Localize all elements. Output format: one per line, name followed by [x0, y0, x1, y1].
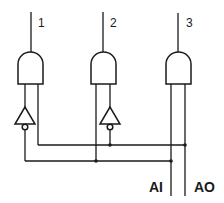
and-gate-3	[166, 52, 191, 84]
inverter-1-icon	[15, 107, 35, 124]
and-gate-2	[91, 52, 116, 84]
junction-dot	[169, 159, 173, 163]
junction-dot	[183, 143, 187, 147]
input-label-ao: AO	[194, 179, 215, 195]
output-label-3: 3	[186, 16, 193, 30]
junction-dot	[94, 159, 98, 163]
input-label-ai: AI	[149, 179, 163, 195]
decoder-circuit-diagram: 1 2 3 AI AO	[0, 0, 224, 203]
and-gate-1	[18, 52, 43, 84]
output-label-2: 2	[110, 16, 117, 30]
output-label-1: 1	[38, 16, 45, 30]
inverter-1-bubble	[22, 124, 28, 130]
inverter-2-icon	[100, 107, 120, 124]
inverter-2-bubble	[107, 124, 113, 130]
junction-dot	[108, 143, 112, 147]
